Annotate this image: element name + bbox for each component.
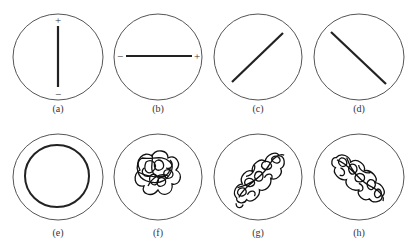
panel-e-label: (e) (52, 227, 63, 239)
tangled-cluster-falling (325, 147, 392, 210)
minus-sign-left: − (117, 50, 123, 62)
plus-sign-top: + (55, 14, 61, 26)
panel-f-label: (f) (153, 227, 163, 239)
diagonal-line-rising (232, 33, 283, 82)
panel-g-label: (g) (252, 227, 264, 239)
panel-h-label: (h) (353, 227, 365, 239)
minus-sign-bottom: − (55, 88, 61, 100)
panel-d: (d) (314, 14, 404, 115)
panel-g: (g) (214, 134, 302, 239)
polarization-diagram: + − (a) − + (b) (c) (d) (e) (f) (0, 0, 416, 249)
panel-d-label: (d) (353, 103, 365, 115)
panel-e: (e) (13, 134, 103, 239)
panel-a: + − (a) (13, 14, 103, 115)
plus-sign-right: + (194, 50, 200, 62)
inner-ring (25, 145, 89, 207)
tangled-cluster-round (135, 151, 180, 194)
panel-h: (h) (314, 134, 404, 239)
panel-f: (f) (114, 134, 202, 239)
diagonal-line-falling (331, 32, 386, 84)
panel-c-label: (c) (252, 103, 263, 115)
panel-c: (c) (214, 14, 302, 115)
panel-b-label: (b) (152, 103, 164, 115)
panel-a-label: (a) (52, 103, 63, 115)
tangled-cluster-rising (224, 144, 292, 212)
panel-b: − + (b) (114, 14, 202, 115)
